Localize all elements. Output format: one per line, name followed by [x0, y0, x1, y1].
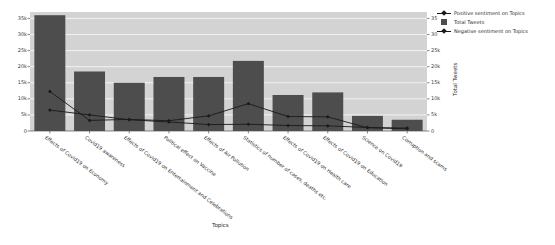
y-tick-label-left: 25k [12, 48, 27, 53]
y-axis-right-title: Total Tweets [452, 63, 458, 96]
y-tick-label-right: 20k [431, 64, 440, 69]
legend-label: Positive sentiment on Topics [454, 9, 525, 17]
chart-figure: 05k10k15k20k25k30k35k 05k10k15k20k25k303… [0, 0, 555, 245]
x-axis-title: Topics [212, 222, 229, 228]
legend-line-icon [437, 13, 451, 14]
y-tick-label-right: 0 [431, 129, 434, 134]
y-tick-label-left: 20k [12, 64, 27, 69]
bar [34, 15, 65, 131]
y-tick-label-left: 5k [12, 112, 27, 117]
y-tick-label-right: 35 [431, 16, 437, 21]
y-tick-label-right: 10k [431, 96, 440, 101]
plot-area [0, 0, 555, 245]
bar [233, 61, 264, 131]
y-tick-label-left: 15k [12, 80, 27, 85]
y-tick-label-right: 30 [431, 32, 437, 37]
y-tick-label-left: 30k [12, 32, 27, 37]
y-tick-label-left: 35k [12, 16, 27, 21]
legend-square-icon [441, 19, 447, 25]
y-tick-label-left: 0 [12, 129, 27, 134]
y-tick-label-right: 5k [431, 112, 437, 117]
legend-label: Total Tweets [454, 18, 484, 26]
bar [114, 83, 145, 131]
legend-line-icon [437, 31, 451, 32]
legend-label: Negative sentiment on Topics [454, 27, 528, 35]
y-tick-label-right: 15k [431, 80, 440, 85]
y-tick-label-right: 25k [431, 48, 440, 53]
y-tick-label-left: 10k [12, 96, 27, 101]
